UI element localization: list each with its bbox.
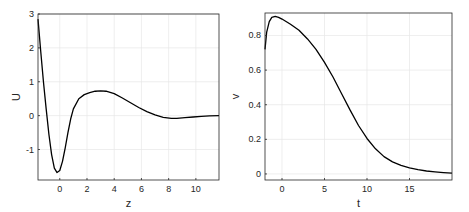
plot-u-vs-z: 0246810-10123zU (10, 9, 219, 209)
x-tick-label: 10 (362, 184, 372, 194)
y-tick-label: 0.6 (248, 65, 261, 75)
x-axis-label: z (126, 197, 132, 209)
y-tick-label: 0.2 (248, 134, 261, 144)
y-axis-label: v (229, 93, 241, 99)
y-tick-label: 0.8 (248, 30, 261, 40)
data-line (265, 16, 452, 173)
y-tick-label: 3 (29, 9, 34, 19)
x-tick-label: 6 (139, 184, 144, 194)
x-tick-label: 0 (57, 184, 62, 194)
x-tick-label: 8 (166, 184, 171, 194)
y-tick-label: 2 (29, 43, 34, 53)
x-tick-label: 10 (191, 184, 201, 194)
y-tick-label: 0.4 (248, 100, 261, 110)
y-tick-label: -1 (26, 145, 34, 155)
y-tick-label: 0 (256, 169, 261, 179)
axes-box (38, 14, 219, 180)
x-tick-label: 15 (404, 184, 414, 194)
x-tick-label: 5 (322, 184, 327, 194)
figure: 0246810-10123zU 05101500.20.40.60.8tv (0, 0, 469, 212)
x-tick-label: 0 (279, 184, 284, 194)
y-tick-label: 0 (29, 111, 34, 121)
axes-box (265, 13, 452, 180)
x-tick-label: 2 (84, 184, 89, 194)
x-axis-label: t (357, 197, 360, 209)
x-tick-label: 4 (112, 184, 117, 194)
y-tick-label: 1 (29, 77, 34, 87)
y-axis-label: U (10, 93, 22, 101)
plot-v-vs-t: 05101500.20.40.60.8tv (229, 13, 452, 209)
